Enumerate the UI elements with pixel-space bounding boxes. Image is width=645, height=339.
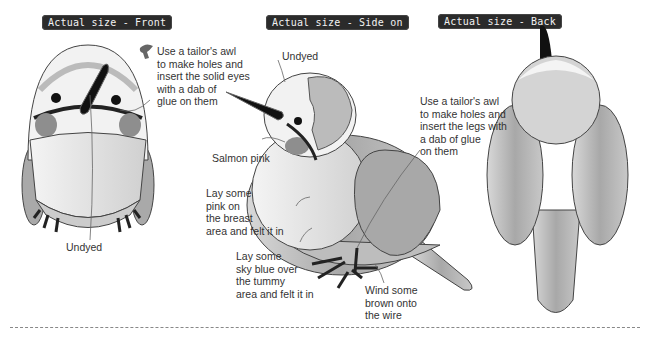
annotation-eyes: Use a tailor's awl to make holes and ins… [157, 45, 250, 108]
annotation-salmon-pink: Salmon pink [212, 152, 270, 165]
bird-illustrations [0, 0, 645, 339]
tailors-awl-icon [140, 44, 153, 59]
annotation-breast: Lay some pink on the breast area and fel… [206, 187, 284, 237]
bird-back [487, 25, 628, 312]
annotation-front-undyed: Undyed [66, 241, 102, 254]
cut-line-divider [10, 327, 640, 328]
annotation-side-undyed: Undyed [282, 50, 318, 63]
annotation-wire: Wind some brown onto the wire [365, 284, 418, 322]
annotation-tummy: Lay some sky blue over the tummy area an… [236, 250, 314, 300]
bird-front [22, 45, 154, 240]
annotation-legs: Use a tailor's awl to make holes and ins… [420, 95, 507, 158]
